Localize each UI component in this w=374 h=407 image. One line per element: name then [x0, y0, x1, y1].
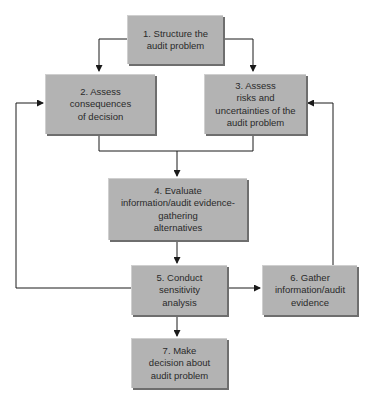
edge-1-to-3 [223, 39, 253, 71]
node-assess-consequences: 2. Assess consequences of decision [45, 74, 155, 134]
node-sensitivity-analysis: 5. Conduct sensitivity analysis [131, 265, 227, 315]
edge-1-to-2 [99, 39, 127, 71]
node-structure-audit-problem: 1. Structure the audit problem [127, 15, 223, 64]
edge-feedback-6-to-3 [308, 103, 333, 265]
node-evaluate-alternatives: 4. Evaluate information/audit evidence- … [108, 178, 247, 240]
node-make-decision: 7. Make decision about audit problem [131, 338, 227, 388]
flowchart-canvas: 1. Structure the audit problem 2. Assess… [0, 0, 374, 407]
node-assess-risks: 3. Assess risks and uncertainties of the… [204, 74, 306, 134]
node-gather-evidence: 6. Gather information/audit evidence [262, 265, 357, 315]
